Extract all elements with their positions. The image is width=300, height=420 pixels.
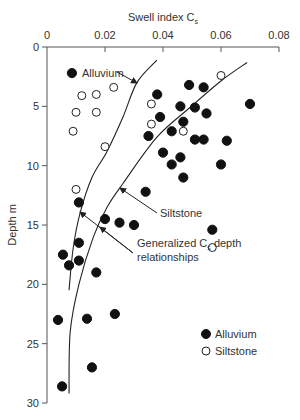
point-alluvium: [115, 218, 124, 227]
legend-alluvium-label: Alluvium: [215, 328, 257, 340]
y-tick-label: 10: [27, 160, 39, 172]
point-alluvium: [129, 220, 138, 229]
point-alluvium: [156, 112, 165, 121]
x-tick-label: 0.04: [152, 29, 173, 41]
point-alluvium: [141, 187, 150, 196]
point-alluvium: [100, 214, 109, 223]
legend: Alluvium Siltstone: [202, 328, 258, 357]
y-tick-label: 15: [27, 219, 39, 231]
x-tick-label: 0.02: [94, 29, 115, 41]
y-tick-label: 5: [33, 100, 39, 112]
point-alluvium: [74, 198, 83, 207]
point-alluvium: [176, 153, 185, 162]
point-siltstone: [72, 108, 80, 116]
y-tick-label: 25: [27, 338, 39, 350]
data-points: [53, 69, 254, 391]
point-siltstone: [69, 127, 77, 135]
point-alluvium: [190, 103, 199, 112]
annotation-generalized-line2: relationships: [137, 251, 199, 263]
point-alluvium: [216, 160, 225, 169]
point-alluvium: [74, 238, 83, 247]
point-alluvium: [176, 102, 185, 111]
point-siltstone: [110, 83, 118, 91]
point-alluvium: [153, 90, 162, 99]
point-alluvium: [199, 83, 208, 92]
x-ticks: 00.020.040.060.08: [44, 29, 290, 52]
point-siltstone: [179, 127, 187, 135]
point-siltstone: [147, 100, 155, 108]
point-siltstone: [92, 108, 100, 116]
arrow-generalized-siltstone: [100, 227, 133, 253]
point-alluvium: [67, 69, 76, 78]
y-axis-title: Depth m: [6, 204, 18, 246]
legend-siltstone-label: Siltstone: [215, 345, 257, 357]
point-alluvium: [167, 127, 176, 136]
point-alluvium: [64, 261, 73, 270]
point-alluvium: [158, 148, 167, 157]
y-tick-label: 0: [33, 41, 39, 53]
point-alluvium: [208, 225, 217, 234]
point-alluvium: [74, 256, 83, 265]
point-alluvium: [179, 173, 188, 182]
point-siltstone: [101, 143, 109, 151]
point-alluvium: [144, 131, 153, 140]
point-siltstone: [92, 90, 100, 98]
x-axis-title: Swell index Cs: [128, 11, 199, 25]
y-ticks: 051015202530: [27, 41, 47, 409]
point-alluvium: [92, 268, 101, 277]
point-alluvium: [58, 250, 67, 259]
point-alluvium: [179, 117, 188, 126]
arrow-siltstone: [120, 188, 157, 213]
point-alluvium: [57, 382, 66, 391]
point-alluvium: [87, 363, 96, 372]
point-alluvium: [199, 135, 208, 144]
point-siltstone: [217, 71, 225, 79]
swell-index-depth-chart: Swell index Cs Depth m 00.020.040.060.08…: [0, 0, 300, 420]
point-alluvium: [185, 80, 194, 89]
point-siltstone: [147, 120, 155, 128]
point-alluvium: [53, 315, 62, 324]
y-tick-label: 30: [27, 397, 39, 409]
legend-alluvium-marker: [202, 330, 211, 339]
x-tick-label: 0: [44, 29, 50, 41]
annotation-alluvium: Alluvium: [82, 67, 124, 79]
point-siltstone: [72, 185, 80, 193]
point-siltstone: [78, 92, 86, 100]
point-alluvium: [110, 309, 119, 318]
point-alluvium: [190, 135, 199, 144]
legend-siltstone-marker: [202, 347, 210, 355]
point-alluvium: [245, 99, 254, 108]
y-tick-label: 20: [27, 278, 39, 290]
point-alluvium: [82, 314, 91, 323]
point-alluvium: [167, 160, 176, 169]
point-alluvium: [202, 109, 211, 118]
annotation-generalized: Generalized Cs depth: [137, 237, 241, 251]
annotation-siltstone: Siltstone: [160, 207, 202, 219]
x-tick-label: 0.06: [210, 29, 231, 41]
x-tick-label: 0.08: [268, 29, 289, 41]
point-alluvium: [222, 136, 231, 145]
